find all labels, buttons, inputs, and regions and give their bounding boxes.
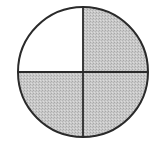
fraction-circle-diagram <box>0 0 150 145</box>
